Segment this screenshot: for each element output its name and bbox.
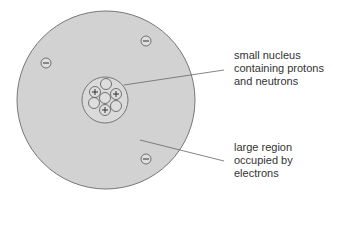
- label-line: electrons: [234, 167, 293, 180]
- label-line: containing protons: [234, 62, 324, 75]
- electron-region-label: large region occupied by electrons: [234, 141, 293, 180]
- label-line: small nucleus: [234, 49, 324, 62]
- label-line: occupied by: [234, 154, 293, 167]
- nucleus-label: small nucleus containing protons and neu…: [234, 49, 324, 88]
- label-line: and neutrons: [234, 75, 324, 88]
- neutron-icon: [111, 101, 122, 112]
- neutron-icon: [89, 98, 100, 109]
- label-line: large region: [234, 141, 293, 154]
- neutron-icon: [100, 93, 111, 104]
- neutron-icon: [101, 79, 112, 90]
